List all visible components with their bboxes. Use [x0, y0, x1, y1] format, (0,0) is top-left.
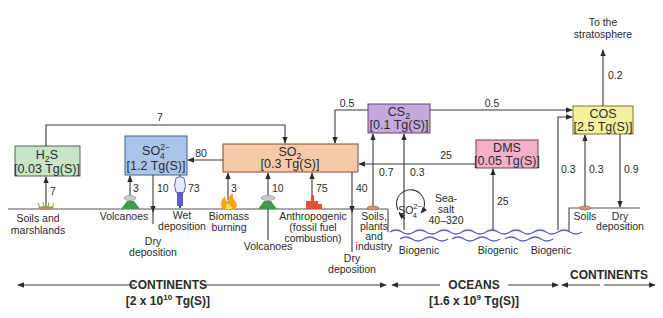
so2-value: [0.3 Tg(S)] — [261, 157, 320, 171]
flux-anthro-so2: 75 — [316, 182, 328, 194]
ocean-waves — [390, 230, 582, 241]
so2-box: SO2 [0.3 Tg(S)] — [223, 144, 358, 172]
flux-volc-so4: 3 — [133, 182, 139, 194]
flux-cos-dry: 0.9 — [624, 163, 639, 175]
flux-so4-dry: 10 — [157, 182, 169, 194]
label-anthropogenic: combustion) — [284, 232, 341, 244]
fire-icon — [221, 193, 237, 209]
h2s-value: [0.03 Tg(S)] — [14, 162, 80, 176]
raindrop-icon — [175, 177, 186, 207]
dms-box: DMS [0.05 Tg(S)] — [474, 140, 540, 168]
flux-ocean-cos: 0.3 — [561, 163, 576, 175]
cos-box: COS [2.5 Tg(S)] — [573, 106, 633, 134]
cos-value: [2.5 Tg(S)] — [574, 120, 633, 134]
label-ocean-so4: SO2−4 — [398, 202, 422, 220]
flux-biogenic-cs2: 0.3 — [410, 166, 425, 178]
flux-h2s-so2: 7 — [157, 111, 163, 123]
label-biogenic: Biogenic — [399, 244, 439, 256]
sulfur-cycle-diagram: H2S [0.03 Tg(S)] SO2−4 [1.2 Tg(S)] SO2 [… — [0, 0, 663, 318]
flux-soils-cos: 0.3 — [589, 163, 604, 175]
label-stratosphere: To the — [589, 16, 618, 28]
flux-so4-wet: 73 — [188, 182, 200, 194]
region-oceans-mass: [1.6 x 109 Tg(S)] — [429, 293, 519, 308]
label-soils-cos: Soils — [574, 210, 597, 222]
h2s-box: H2S [0.03 Tg(S)] — [14, 146, 80, 176]
label-biomass: burning — [211, 221, 246, 233]
dms-value: [0.05 Tg(S)] — [474, 154, 540, 168]
flux-soils-h2s: 7 — [50, 185, 56, 197]
volcano-icon — [258, 196, 277, 210]
label-biogenic: Biogenic — [531, 244, 571, 256]
flux-volc-so2: 10 — [272, 182, 284, 194]
flux-soils-cs2: 0.7 — [379, 166, 394, 178]
cs2-value: [0.1 Tg(S)] — [370, 118, 429, 132]
label-volcanoes: Volcanoes — [100, 210, 148, 222]
flux-cs2-so2: 0.5 — [340, 97, 355, 109]
label-dry-dep: deposition — [328, 263, 376, 275]
so4-value: [1.2 Tg(S)] — [127, 159, 186, 173]
label-soils-marsh: Soils and — [16, 212, 59, 224]
flux-cs2-cos: 0.5 — [485, 97, 500, 109]
label-wet-dep: deposition — [158, 220, 206, 232]
label-seasalt: salt — [438, 203, 454, 215]
flux-so2-dry: 40 — [356, 182, 368, 194]
cs2-box: CS2 [0.1 Tg(S)] — [368, 104, 430, 133]
label-dry-dep: deposition — [129, 246, 177, 258]
flux-biomass-so2: 3 — [231, 182, 237, 194]
label-soils-plants: industry — [356, 240, 394, 252]
so4-box: SO2−4 [1.2 Tg(S)] — [125, 136, 187, 175]
flux-so2-so4: 80 — [195, 147, 207, 159]
region-oceans: OCEANS — [448, 278, 499, 292]
flux-dms-so2: 25 — [440, 149, 452, 161]
label-biogenic: Biogenic — [478, 244, 518, 256]
region-continents-right: CONTINENTS — [570, 268, 648, 282]
flux-seasalt: 40–320 — [428, 214, 463, 226]
volcano-icon — [121, 196, 140, 210]
region-continents: CONTINENTS — [129, 278, 207, 292]
factory-icon — [306, 195, 322, 209]
dms-name: DMS — [493, 141, 521, 155]
flux-cos-strat: 0.2 — [608, 69, 623, 81]
region-continents-mass: [2 x 1010 Tg(S)] — [126, 293, 210, 308]
cos-name: COS — [589, 107, 616, 121]
flux-biogenic-dms: 25 — [497, 195, 509, 207]
label-soils-marsh: marshlands — [11, 224, 65, 236]
label-dry-dep: deposition — [596, 220, 644, 232]
label-stratosphere: stratosphere — [574, 28, 633, 40]
